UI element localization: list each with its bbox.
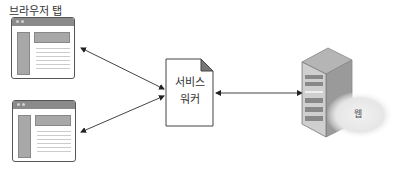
arrow-tab2-to-service-worker xyxy=(81,96,164,132)
service-worker-label-line1: 서비스 xyxy=(167,74,213,91)
web-cloud-label: 웹 xyxy=(354,107,362,120)
service-worker-label-line2: 워커 xyxy=(167,91,213,108)
arrow-tab1-to-service-worker xyxy=(81,48,164,89)
service-worker-label: 서비스 워커 xyxy=(167,74,213,108)
